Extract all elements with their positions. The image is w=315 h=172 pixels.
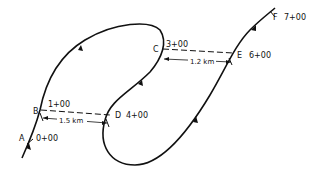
route-curve [22, 8, 275, 165]
arrow-icon [78, 45, 83, 51]
dimension-label-c-e: 1.2 km [190, 58, 214, 66]
station-label-b: 1+00 [48, 100, 70, 109]
point-label-d: D [115, 111, 121, 120]
station-label-a: 0+00 [36, 134, 58, 143]
station-label-f: 7+00 [284, 13, 306, 22]
point-label-c: C [153, 45, 159, 54]
station-label-c: 3+00 [166, 40, 188, 49]
dashed-line-c-e [163, 49, 233, 53]
station-label-e: 6+00 [249, 51, 271, 60]
station-label-d: 4+00 [126, 111, 148, 120]
dim-arrow-icon [164, 57, 169, 61]
dimension-label-b-d: 1.5 km [59, 117, 83, 125]
point-label-e: E [237, 51, 242, 60]
dim-arrow-icon [43, 116, 48, 120]
route-diagram: A 0+00 B 1+00 C 3+00 D 4+00 E 6+00 F 7+0… [0, 0, 315, 172]
dashed-line-b-d [41, 110, 110, 115]
point-label-f: F [273, 13, 278, 22]
point-label-a: A [19, 134, 25, 143]
station-tick-b [40, 113, 43, 121]
point-label-b: B [33, 107, 39, 116]
